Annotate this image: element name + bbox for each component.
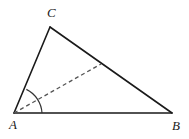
vertex-label-c: C — [47, 6, 56, 19]
side-CA — [14, 27, 50, 113]
vertex-label-a: A — [9, 118, 17, 131]
side-BC — [50, 27, 172, 113]
angle-bisector-dashed-segment — [14, 64, 101, 113]
geometry-figure: A B C — [0, 0, 189, 139]
vertex-label-b: B — [172, 119, 180, 132]
triangle-diagram — [0, 0, 189, 139]
